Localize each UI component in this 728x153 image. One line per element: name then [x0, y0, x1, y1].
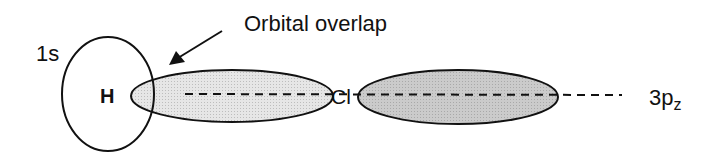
cl-3p-overlap-lobe	[131, 70, 333, 122]
overlap-caption: Orbital overlap	[244, 11, 387, 36]
cl-atom-label: Cl	[331, 85, 351, 108]
cl-orbital-label: 3pz	[649, 85, 681, 113]
cl-3p-back-lobe	[358, 70, 558, 124]
overlap-arrowhead-icon	[169, 51, 185, 65]
h-orbital-label: 1s	[36, 41, 59, 66]
orbital-overlap-diagram: 1s H Orbital overlap Cl 3pz	[0, 0, 728, 153]
cl-orbital-label-main: 3p	[649, 85, 673, 110]
overlap-arrow-line	[178, 31, 222, 58]
cl-orbital-label-subscript: z	[673, 96, 681, 113]
h-atom-label: H	[100, 85, 114, 107]
